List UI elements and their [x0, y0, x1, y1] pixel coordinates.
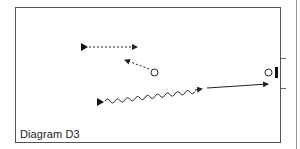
- goal-bar-icon: [275, 67, 278, 78]
- goalkeeper-circle-icon: [265, 69, 272, 76]
- field-frame: [16, 8, 281, 143]
- diagram-canvas: [0, 0, 300, 149]
- circle-marker-icon: [151, 69, 158, 76]
- diagram-caption: Diagram D3: [20, 128, 80, 140]
